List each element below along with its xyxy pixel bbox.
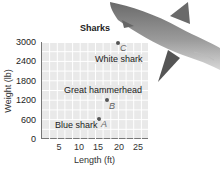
x-axis-label: Length (ft)	[74, 155, 115, 165]
point-letter-a: A	[101, 119, 107, 129]
point-label-blue-shark: Blue shark	[55, 120, 98, 130]
y-tick: 3000	[2, 37, 36, 47]
y-tick: 600	[2, 115, 36, 125]
plot-area: A Blue shark B Great hammerhead C White …	[41, 42, 148, 139]
point-letter-b: B	[109, 101, 115, 111]
point-label-great-hammerhead: Great hammerhead	[64, 85, 142, 95]
y-tick: 2400	[2, 56, 36, 66]
x-tick: 10	[71, 142, 87, 152]
y-tick: 1800	[2, 76, 36, 86]
x-tick: 15	[90, 142, 106, 152]
point-label-white-shark: White shark	[95, 54, 143, 64]
y-tick: 0	[2, 134, 36, 144]
chart-title: Sharks	[80, 23, 110, 33]
x-tick: 5	[51, 142, 67, 152]
y-tick: 1200	[2, 95, 36, 105]
x-tick: 20	[111, 142, 127, 152]
point-letter-c: C	[120, 43, 127, 53]
x-tick: 25	[130, 142, 146, 152]
